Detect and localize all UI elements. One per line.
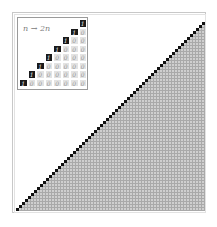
inset-cell-off: 0	[28, 79, 37, 88]
grid-cell-off	[202, 208, 205, 211]
inset-cell-on: 1	[36, 62, 45, 71]
inset-cell-off: 0	[62, 62, 71, 71]
inset-cell-off: 0	[45, 70, 54, 79]
inset-cell-off: 0	[70, 62, 79, 71]
inset-cell-off: 0	[70, 53, 79, 62]
inset-cell-off: 0	[53, 62, 62, 71]
inset-cell-off: 0	[45, 62, 54, 71]
inset-cell-on: 1	[28, 70, 37, 79]
inset-cell-off: 0	[79, 70, 88, 79]
inset-cell-off: 0	[53, 70, 62, 79]
inset-cell-off: 0	[62, 70, 71, 79]
inset-cell-off: 0	[62, 45, 71, 54]
inset-cell-on: 1	[62, 36, 71, 45]
inset-cell-off: 0	[70, 70, 79, 79]
inset-cell-on: 1	[70, 28, 79, 37]
inset-cell-off: 0	[70, 79, 79, 88]
inset-cell-on: 1	[19, 79, 28, 88]
inset-cell-off: 0	[36, 79, 45, 88]
inset-cell-off: 0	[53, 79, 62, 88]
inset-cell-on: 1	[53, 45, 62, 54]
inset-cell-off: 0	[79, 79, 88, 88]
rule-label: n → 2n	[23, 24, 50, 33]
inset-cell-on: 1	[45, 53, 54, 62]
inset-panel: 110100100010000100000100000010000000 n →…	[17, 17, 88, 90]
inset-cell-on: 1	[79, 19, 88, 28]
inset-cell-off: 0	[79, 53, 88, 62]
inset-cell-off: 0	[70, 36, 79, 45]
inset-cell-off: 0	[70, 45, 79, 54]
inset-cell-off: 0	[36, 70, 45, 79]
inset-cell-off: 0	[79, 45, 88, 54]
inset-cell-off: 0	[79, 36, 88, 45]
inset-cell-off: 0	[62, 79, 71, 88]
inset-cell-off: 0	[62, 53, 71, 62]
inset-cell-off: 0	[79, 28, 88, 37]
inset-cell-off: 0	[45, 79, 54, 88]
inset-cell-off: 0	[53, 53, 62, 62]
inset-cell-off: 0	[79, 62, 88, 71]
